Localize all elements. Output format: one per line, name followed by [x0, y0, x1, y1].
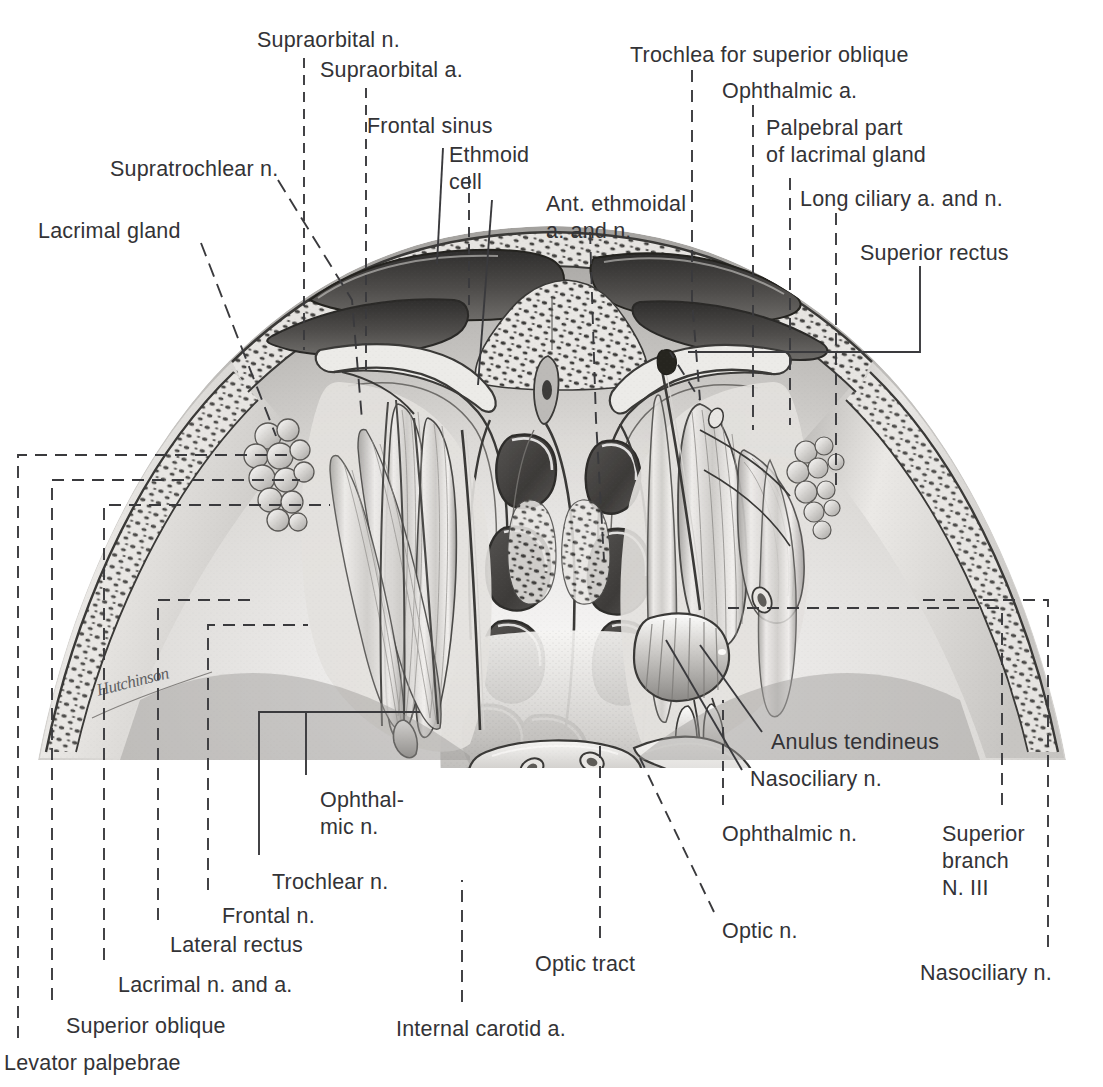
label-optic-tract: Optic tract — [535, 951, 635, 978]
leader-nasociliary-mid — [666, 640, 742, 770]
label-frontal-n: Frontal n. — [222, 903, 315, 930]
leader-superior-rectus — [688, 266, 920, 352]
label-lacrimal-gland: Lacrimal gland — [38, 218, 181, 245]
label-supratrochlear-n: Supratrochlear n. — [110, 156, 278, 183]
leader-frontal-sinus — [437, 148, 443, 264]
label-lacrimal-n-and-a: Lacrimal n. and a. — [118, 972, 293, 999]
label-supraorbital-a: Supraorbital a. — [320, 57, 463, 84]
leader-optic-n — [640, 758, 714, 912]
label-internal-carotid-a: Internal carotid a. — [396, 1016, 566, 1043]
label-long-ciliary-a-and-n: Long ciliary a. and n. — [800, 186, 1003, 213]
leader-ophthalmic-n-left — [306, 712, 420, 775]
label-trochlear-n: Trochlear n. — [272, 869, 388, 896]
label-frontal-sinus: Frontal sinus — [367, 113, 493, 140]
leader-ethmoid-cell-b — [478, 200, 492, 385]
leader-lacrimal-gland — [201, 243, 276, 436]
leader-supratrochlear-n — [278, 180, 362, 420]
label-supraorbital-n: Supraorbital n. — [257, 27, 400, 54]
label-ant-ethmoidal-a-and-n: Ant. ethmoidal a. and n. — [546, 191, 686, 245]
label-lateral-rectus: Lateral rectus — [170, 932, 303, 959]
label-nasociliary-n-bottom: Nasociliary n. — [920, 960, 1052, 987]
label-nasociliary-n-mid: Nasociliary n. — [750, 766, 882, 793]
leader-lateral-rectus — [158, 600, 250, 920]
label-ophthalmic-n-right: Ophthalmic n. — [722, 821, 857, 848]
leader-ant-ethmoidal — [590, 232, 604, 560]
anatomical-plate: Hutchinson Supraorbital n.Supraorbital a… — [0, 0, 1103, 1087]
label-ophthalmic-a: Ophthalmic a. — [722, 78, 857, 105]
label-anulus-tendineus: Anulus tendineus — [771, 729, 939, 756]
label-superior-rectus: Superior rectus — [860, 240, 1009, 267]
leader-frontal-n — [208, 625, 308, 890]
label-ethmoid-cell: Ethmoid cell — [449, 142, 529, 196]
label-superior-oblique: Superior oblique — [66, 1013, 226, 1040]
leader-anulus-tendineus — [700, 645, 762, 732]
label-optic-n: Optic n. — [722, 918, 798, 945]
label-superior-branch-n3: Superior branch N. III — [942, 821, 1025, 902]
label-ophthalmic-n-left: Ophthal- mic n. — [320, 787, 404, 841]
label-levator-palpebrae: Levator palpebrae — [4, 1050, 181, 1077]
label-palpebral-part-lacrimal: Palpebral part of lacrimal gland — [766, 115, 926, 169]
label-trochlea-superior-oblique: Trochlea for superior oblique — [630, 42, 909, 69]
